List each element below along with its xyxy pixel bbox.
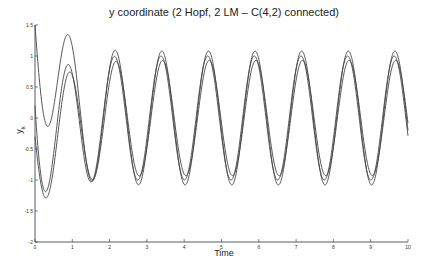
y-axis-label: yk: [14, 125, 26, 134]
series-line: [35, 25, 408, 185]
data-series: [35, 25, 408, 198]
x-tick-label: 3: [146, 244, 149, 250]
x-tick-label: 7: [295, 244, 298, 250]
y-tick-label: -2: [29, 239, 34, 245]
x-tick-label: 0: [34, 244, 37, 250]
y-tick-label: 1.5: [26, 22, 33, 28]
x-tick-label: 9: [369, 244, 372, 250]
y-tick-label: 1: [30, 53, 33, 59]
x-tick-label: 4: [183, 244, 186, 250]
y-tick-label: -0.5: [24, 146, 33, 152]
y-tick-label: 0: [30, 115, 33, 121]
x-tick-label: 6: [257, 244, 260, 250]
y-tick-label: 0.5: [26, 84, 33, 90]
y-tick-label: -1: [29, 177, 34, 183]
x-tick-label: 8: [332, 244, 335, 250]
chart-title: y coordinate (2 Hopf, 2 LM – C(4,2) conn…: [109, 6, 339, 18]
x-axis-label: Time: [214, 248, 234, 258]
x-tick-label: 1: [71, 244, 74, 250]
x-tick-label: 2: [108, 244, 111, 250]
line-chart: y coordinate (2 Hopf, 2 LM – C(4,2) conn…: [0, 0, 422, 269]
x-tick-label: 10: [405, 244, 411, 250]
y-tick-label: -1.5: [24, 208, 33, 214]
